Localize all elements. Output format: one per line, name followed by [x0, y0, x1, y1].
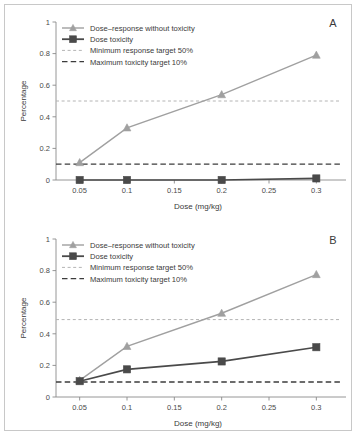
x-tick-label: 0.25: [262, 403, 277, 412]
x-tick-label: 0.15: [167, 403, 182, 412]
y-tick-label: 1: [46, 235, 50, 244]
legend-item: Dose toxicity: [62, 252, 133, 261]
legend-item: Dose toxicity: [62, 35, 133, 44]
legend-label: Dose toxicity: [90, 35, 133, 44]
x-tick-label: 0.2: [216, 403, 226, 412]
data-point-marker: [123, 366, 130, 373]
y-tick-label: 0.8: [40, 49, 50, 58]
data-point-marker: [123, 176, 130, 183]
y-axis-title: Percentage: [19, 80, 28, 121]
x-tick-label: 0.25: [262, 186, 277, 195]
y-tick-label: 0.2: [40, 361, 50, 370]
series-line: [80, 55, 317, 162]
panel-b: 00.20.40.60.810.050.10.150.20.250.3Dose …: [0, 217, 356, 434]
panel-letter: A: [329, 17, 337, 29]
data-point-marker: [218, 176, 225, 183]
y-tick-label: 1: [46, 18, 50, 27]
y-tick-label: 0.4: [40, 330, 50, 339]
legend-item: Maximum toxicity target 10%: [62, 58, 187, 67]
data-point-marker: [76, 159, 84, 166]
legend-square-icon: [70, 253, 77, 260]
series-line: [80, 347, 317, 381]
legend-label: Dose toxicity: [90, 252, 133, 261]
series-line: [80, 275, 317, 381]
data-point-marker: [313, 175, 320, 182]
figure-container: 00.20.40.60.810.050.10.150.20.250.3Dose …: [0, 0, 356, 435]
legend-label: Dose–response without toxicity: [90, 24, 195, 33]
data-point-marker: [76, 378, 83, 385]
legend-item: Maximum toxicity target 10%: [62, 275, 187, 284]
legend-label: Maximum toxicity target 10%: [90, 275, 187, 284]
x-tick-label: 0.3: [311, 186, 321, 195]
x-tick-label: 0.1: [122, 186, 132, 195]
x-tick-label: 0.3: [311, 403, 321, 412]
plot-a: 00.20.40.60.810.050.10.150.20.250.3Dose …: [0, 0, 356, 217]
data-point-marker: [313, 344, 320, 351]
panel-a: 00.20.40.60.810.050.10.150.20.250.3Dose …: [0, 0, 356, 217]
legend-label: Minimum response target 50%: [90, 46, 193, 55]
y-tick-label: 0.6: [40, 298, 50, 307]
legend-label: Minimum response target 50%: [90, 263, 193, 272]
legend-label: Maximum toxicity target 10%: [90, 58, 187, 67]
y-tick-label: 0.2: [40, 144, 50, 153]
y-tick-label: 0: [46, 176, 50, 185]
data-point-marker: [76, 176, 83, 183]
x-tick-label: 0.15: [167, 186, 182, 195]
y-tick-label: 0: [46, 393, 50, 402]
x-axis-title: Dose (mg/kg): [174, 419, 222, 428]
legend-item: Dose–response without toxicity: [62, 241, 195, 250]
legend-item: Dose–response without toxicity: [62, 24, 195, 33]
y-axis-title: Percentage: [19, 297, 28, 338]
y-tick-label: 0.6: [40, 81, 50, 90]
x-tick-label: 0.2: [216, 186, 226, 195]
data-point-marker: [312, 270, 320, 277]
x-tick-label: 0.1: [122, 403, 132, 412]
plot-b: 00.20.40.60.810.050.10.150.20.250.3Dose …: [0, 217, 356, 434]
y-tick-label: 0.4: [40, 113, 50, 122]
legend-item: Minimum response target 50%: [62, 46, 193, 55]
legend-square-icon: [70, 36, 77, 43]
x-axis-title: Dose (mg/kg): [174, 202, 222, 211]
series-line: [80, 178, 317, 180]
x-tick-label: 0.05: [72, 186, 87, 195]
data-point-marker: [312, 51, 320, 58]
x-tick-label: 0.05: [72, 403, 87, 412]
data-point-marker: [218, 358, 225, 365]
legend-item: Minimum response target 50%: [62, 263, 193, 272]
y-tick-label: 0.8: [40, 266, 50, 275]
legend-label: Dose–response without toxicity: [90, 241, 195, 250]
panel-letter: B: [329, 234, 336, 246]
